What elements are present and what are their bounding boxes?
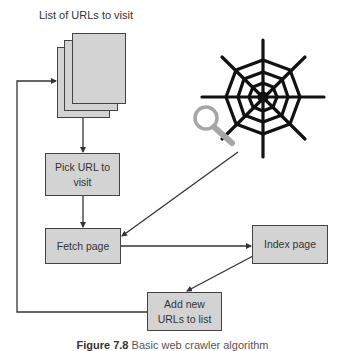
index-page-box: Index page <box>252 225 328 264</box>
pick-url-box: Pick URL to visit <box>45 153 120 196</box>
magnifying-glass-icon <box>195 107 232 143</box>
index-page-label: Index page <box>264 237 316 251</box>
edge-index-to-add <box>187 256 253 291</box>
edge-add-to-list <box>17 81 147 312</box>
add-urls-label-1: Add new <box>158 297 212 311</box>
figure-caption: Figure 7.8 Basic web crawler algorithm <box>0 339 345 351</box>
figure-number: Figure 7.8 <box>77 339 129 351</box>
spider-web-icon <box>202 40 324 157</box>
edge-web-to-fetch <box>122 152 238 236</box>
add-urls-label-2: URLs to list <box>158 312 212 326</box>
fetch-page-label: Fetch page <box>57 239 110 253</box>
fetch-page-box: Fetch page <box>45 228 121 264</box>
add-urls-box: Add new URLs to list <box>147 292 222 331</box>
figure-caption-text: Basic web crawler algorithm <box>132 339 269 351</box>
pick-url-label-1: Pick URL to <box>55 160 110 174</box>
pick-url-label-2: visit <box>55 175 110 189</box>
